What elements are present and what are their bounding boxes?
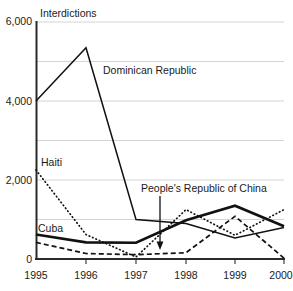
series-label-peoples-republic-of-china: People's Republic of China [141,182,267,194]
x-tick-label-2000: 2000 [269,269,293,281]
chart-canvas: Interdictions 6,000 4,000 2,000 0 1995 1… [0,0,293,291]
series-label-haiti: Haiti [41,156,62,168]
series-label-cuba: Cuba [38,222,63,234]
x-tick-label-1995: 1995 [24,269,48,281]
x-tick-label-1997: 1997 [124,269,148,281]
y-axis-title: Interdictions [40,7,97,19]
interdictions-line-chart: Interdictions 6,000 4,000 2,000 0 1995 1… [0,0,293,291]
y-tick-label-4000: 4,000 [6,95,32,107]
series-label-dominican-republic: Dominican Republic [103,64,196,76]
y-tick-label-0: 0 [26,253,32,265]
x-tick-label-1998: 1998 [174,269,198,281]
y-tick-label-6000: 6,000 [6,15,32,27]
peoples-republic-of-china-callout-arrow [157,196,164,250]
x-tick-label-1996: 1996 [74,269,98,281]
x-tick-label-1999: 1999 [223,269,247,281]
y-tick-label-2000: 2,000 [6,174,32,186]
